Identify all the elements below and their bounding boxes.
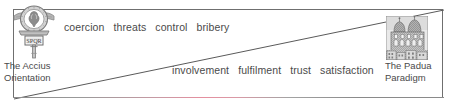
coercive-word: coercion — [64, 21, 105, 33]
padua-caption-line-2: Paradigm — [385, 72, 431, 84]
bottom-accent-line — [13, 97, 444, 98]
figure-container: SPQR — [0, 0, 456, 110]
cooperative-word: fulfilment — [238, 64, 281, 76]
cooperative-word: satisfaction — [320, 64, 374, 76]
accius-caption: The Accius Orientation — [4, 60, 50, 83]
cooperative-words-row: involvementfulfilmenttrustsatisfaction — [172, 64, 383, 76]
roman-standard-icon: SPQR — [7, 1, 61, 59]
padua-buildings-engraving — [386, 16, 428, 60]
accius-caption-line-2: Orientation — [4, 72, 50, 84]
coercive-words-row: coercionthreatscontrolbribery — [64, 21, 238, 33]
coercive-word: control — [155, 21, 187, 33]
accius-caption-line-1: The Accius — [4, 60, 50, 72]
spqr-inscription: SPQR — [26, 37, 42, 44]
coercive-word: bribery — [197, 21, 230, 33]
padua-caption-line-1: The Padua — [385, 60, 431, 72]
roman-standard-emblem: SPQR — [7, 1, 61, 59]
cooperative-word: trust — [290, 64, 311, 76]
cooperative-word: involvement — [172, 64, 229, 76]
coercive-word: threats — [114, 21, 147, 33]
padua-basilica-icon — [386, 16, 428, 60]
padua-caption: The Padua Paradigm — [385, 60, 431, 83]
